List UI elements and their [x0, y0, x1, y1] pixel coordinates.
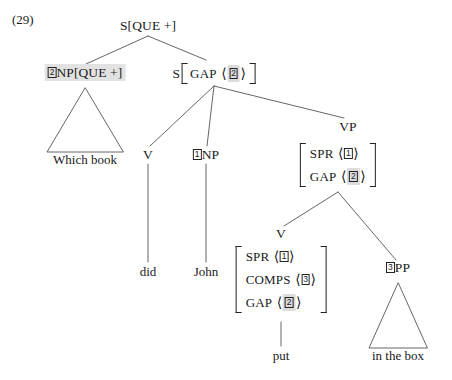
avm-row-gap: GAP ⟨2⟩ — [190, 65, 246, 82]
terminal-put: put — [273, 349, 290, 362]
feature-gap-label: GAP — [190, 66, 217, 82]
node-vp[interactable]: VP — [339, 120, 356, 134]
index-box-2: 2 — [285, 297, 294, 308]
angle-close-icon: ⟩ — [295, 295, 301, 310]
node-v-did-label: V — [143, 147, 153, 162]
angle-close-icon: ⟩ — [360, 169, 366, 184]
index-box-1: 1 — [193, 149, 202, 160]
gap-value-list: ⟨2⟩ — [340, 168, 366, 185]
edge-vp-pp — [338, 192, 396, 260]
node-pp[interactable]: 3PP — [386, 261, 410, 275]
spr-value-list: ⟨1⟩ — [338, 145, 360, 162]
avm-row-gap: GAP ⟨2⟩ — [310, 168, 366, 185]
vp-avm-rows: SPR ⟨1⟩ GAP ⟨2⟩ — [306, 143, 370, 187]
v-avm-rows: SPR ⟨1⟩ COMPS ⟨3⟩ GAP ⟨2⟩ — [242, 246, 321, 313]
index-box-1: 1 — [280, 251, 289, 262]
avm-row-spr: SPR ⟨1⟩ — [310, 145, 366, 162]
spr-value-list: ⟨1⟩ — [273, 248, 295, 265]
terminal-put-label: put — [273, 348, 290, 363]
triangle-in-the-box — [369, 283, 427, 348]
angle-open-icon: ⟨ — [221, 66, 227, 81]
index-box-3: 3 — [301, 274, 310, 285]
feature-gap-label: GAP — [246, 295, 273, 311]
avm-bracket-right — [370, 143, 376, 187]
terminal-in-the-box: in the box — [372, 349, 424, 362]
gap-value-highlight: 2 — [347, 168, 360, 185]
node-np-john-label: NP — [202, 147, 219, 162]
feature-comps-label: COMPS — [246, 272, 291, 288]
node-v-did[interactable]: V — [143, 148, 153, 162]
terminal-did-label: did — [140, 264, 157, 279]
node-v-put-label: V — [276, 226, 286, 241]
terminal-which-book: Which book — [53, 153, 117, 166]
index-box-1: 1 — [344, 148, 353, 159]
gap-value-highlight: 2 — [227, 65, 240, 82]
angle-close-icon: ⟩ — [310, 272, 316, 287]
node-np-john[interactable]: 1NP — [193, 148, 219, 162]
terminal-john: John — [194, 265, 219, 278]
avm-row-comps: COMPS ⟨3⟩ — [246, 271, 317, 288]
s-gap-rows: GAP ⟨2⟩ — [187, 63, 249, 84]
np-que-highlight: 2NP[QUE +] — [45, 64, 126, 81]
feature-spr-label: SPR — [310, 146, 334, 162]
index-box-2: 2 — [349, 171, 358, 182]
feature-spr-label: SPR — [246, 249, 270, 265]
comps-value-list: ⟨3⟩ — [295, 271, 317, 288]
feature-gap-label: GAP — [310, 169, 337, 185]
node-pp-label: PP — [395, 260, 410, 275]
gap-value-list: ⟨2⟩ — [221, 65, 247, 82]
angle-close-icon: ⟩ — [240, 66, 246, 81]
edge-sgap-v — [150, 86, 214, 146]
triangle-which-book — [47, 88, 123, 152]
node-root-label: S[QUE +] — [120, 18, 176, 33]
edge-root-sgap — [148, 36, 206, 60]
gap-value-highlight: 2 — [283, 294, 296, 311]
avm-bracket-right — [249, 63, 255, 84]
node-vp-avm[interactable]: SPR ⟨1⟩ GAP ⟨2⟩ — [300, 143, 376, 187]
node-v-put[interactable]: V — [276, 227, 286, 241]
avm-row-gap: GAP ⟨2⟩ — [246, 294, 317, 311]
edge-root-npque — [86, 36, 148, 64]
node-vp-label: VP — [339, 119, 356, 134]
gap-value-list: ⟨2⟩ — [276, 294, 302, 311]
tree-edges-canvas — [0, 0, 452, 380]
index-box-2: 2 — [229, 68, 238, 79]
index-box-3: 3 — [386, 262, 395, 273]
edge-sgap-np — [207, 86, 214, 146]
index-box-2: 2 — [48, 67, 57, 78]
node-root-s-que[interactable]: S[QUE +] — [120, 19, 176, 33]
edge-sgap-vp — [214, 86, 344, 118]
node-np-que[interactable]: 2NP[QUE +] — [45, 66, 126, 80]
edge-vp-vput — [284, 192, 338, 226]
node-v-avm[interactable]: SPR ⟨1⟩ COMPS ⟨3⟩ GAP ⟨2⟩ — [236, 246, 327, 313]
angle-close-icon: ⟩ — [289, 249, 295, 264]
node-s-gap[interactable]: S GAP ⟨2⟩ — [173, 63, 256, 84]
avm-row-spr: SPR ⟨1⟩ — [246, 248, 317, 265]
node-np-que-label: NP[QUE +] — [56, 65, 122, 80]
terminal-which-book-label: Which book — [53, 152, 117, 167]
terminal-john-label: John — [194, 264, 219, 279]
terminal-did: did — [140, 265, 157, 278]
terminal-in-the-box-label: in the box — [372, 348, 424, 363]
node-s-head-label: S — [173, 66, 182, 82]
avm-bracket-right — [320, 246, 326, 313]
angle-close-icon: ⟩ — [353, 146, 359, 161]
